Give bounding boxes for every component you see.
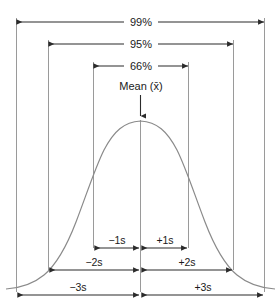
label-plus-2s: +2s (178, 256, 195, 268)
label-99: 99% (130, 16, 152, 28)
label-minus-3s: −3s (69, 281, 86, 293)
label-minus-1s: −1s (108, 234, 125, 246)
label-plus-1s: +1s (156, 234, 173, 246)
label-plus-3s: +3s (194, 281, 211, 293)
label-95: 95% (130, 38, 152, 50)
normal-distribution-figure: 99% 95% 66% Mean (x̄) −1s +1s −2s +2s (0, 0, 280, 306)
label-66: 66% (130, 60, 152, 72)
label-mean: Mean (x̄) (119, 80, 162, 92)
label-minus-2s: −2s (85, 256, 102, 268)
